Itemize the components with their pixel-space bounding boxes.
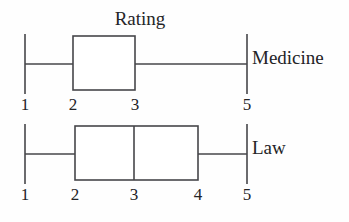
law-tick-label-2: 2 [64, 186, 86, 204]
series-label-law: Law [252, 138, 286, 158]
medicine-tick-label-3: 3 [124, 96, 146, 114]
law-box [75, 126, 198, 180]
law-tick-label-5: 5 [236, 186, 258, 204]
series-label-medicine: Medicine [252, 48, 324, 68]
law-tick-label-4: 4 [187, 186, 209, 204]
medicine-tick-label-1: 1 [14, 96, 36, 114]
boxplot-law [25, 124, 247, 184]
boxplot-medicine [25, 34, 247, 94]
medicine-box [73, 36, 135, 90]
law-tick-label-1: 1 [14, 186, 36, 204]
medicine-tick-label-2: 2 [62, 96, 84, 114]
boxplot-figure: Rating [0, 0, 349, 222]
law-tick-label-3: 3 [123, 186, 145, 204]
medicine-tick-label-5: 5 [236, 96, 258, 114]
boxplot-canvas [0, 0, 349, 222]
